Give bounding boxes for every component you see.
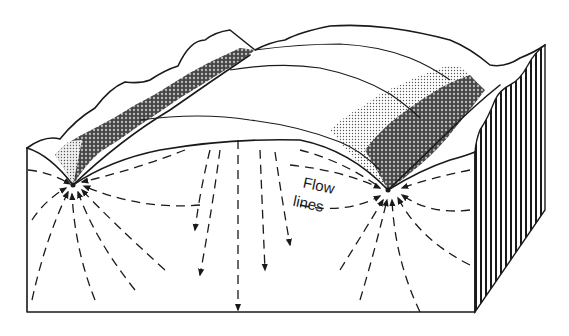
left-valley-crease [73, 55, 250, 185]
flow-lines-center [195, 140, 290, 310]
flow-lines-label-line1: Flow [302, 174, 337, 197]
right-stream-point [386, 188, 391, 193]
side-face [475, 45, 545, 312]
flow-lines-label: Flow lines [292, 172, 337, 216]
side-face-hatched [475, 45, 545, 312]
hill-contour-1 [255, 44, 450, 80]
flow-lines-left [28, 150, 200, 300]
groundwater-flow-block-diagram: Flow lines [0, 0, 569, 336]
landscape-surface [27, 25, 545, 190]
left-stream-point [71, 183, 76, 188]
flow-lines-label-line2: lines [292, 192, 326, 215]
